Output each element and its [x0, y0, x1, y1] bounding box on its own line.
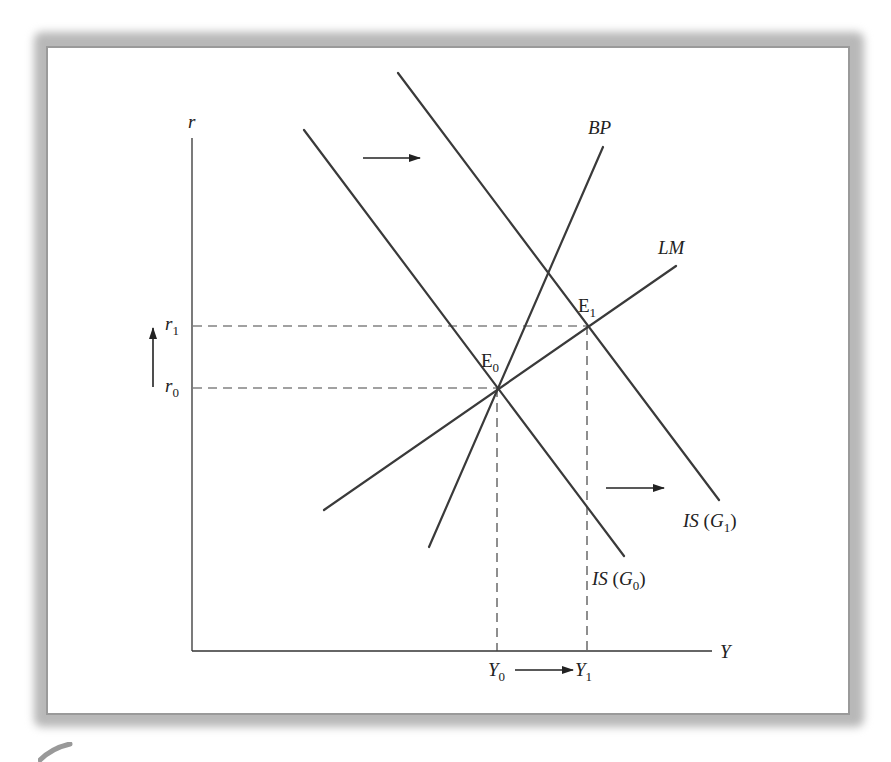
bp-curve — [429, 147, 603, 547]
y1-label: Y1 — [575, 659, 592, 684]
is-g0-label: IS (G0) — [591, 568, 645, 593]
y0-label: Y0 — [488, 659, 505, 684]
r1-label: r1 — [165, 313, 179, 338]
curves — [304, 73, 719, 556]
is-g1-label: IS (G1) — [682, 510, 736, 535]
is-lm-bp-diagram: r Y BP LM IS (G0) IS (G1) E0 E1 r1 r0 Y0 — [0, 0, 891, 762]
y-axis-label: r — [188, 111, 196, 132]
shift-arrows — [153, 158, 664, 670]
r0-label: r0 — [165, 375, 179, 400]
bp-label: BP — [588, 117, 612, 138]
guide-lines — [193, 326, 587, 651]
is-g1-curve — [398, 73, 719, 500]
page-curl-decoration — [38, 742, 78, 762]
lm-label: LM — [657, 237, 686, 258]
x-axis-label: Y — [720, 641, 733, 662]
e0-label: E0 — [481, 350, 499, 375]
axes: r Y — [188, 111, 733, 662]
is-g0-curve — [304, 130, 624, 556]
